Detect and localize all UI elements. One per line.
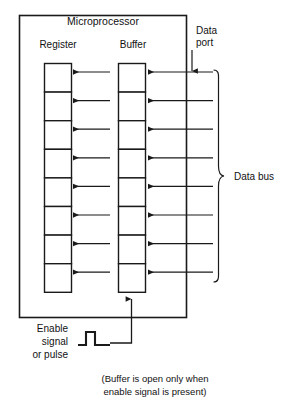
data-port-label-line2: port	[196, 37, 213, 48]
buffer-cell	[119, 121, 146, 150]
enable-signal-annotation: Enable signal or pulse	[32, 299, 131, 360]
register-column	[45, 64, 72, 293]
buffer-cell	[119, 178, 146, 207]
buffer-cell	[119, 92, 146, 121]
microprocessor-data-bus-diagram: Microprocessor Register Buffer	[0, 0, 291, 407]
caption-line2: enable signal is present)	[104, 386, 207, 397]
buffer-cell	[119, 64, 146, 93]
register-cell	[45, 264, 72, 293]
register-cell	[45, 207, 72, 236]
register-cell	[45, 235, 72, 264]
data-port-annotation: Data port	[192, 25, 218, 71]
data-bus-annotation: Data bus	[214, 70, 275, 282]
register-cell	[45, 178, 72, 207]
register-column-label: Register	[39, 39, 77, 50]
enable-label-line1: Enable	[37, 323, 69, 334]
buffer-column	[119, 64, 146, 293]
right-curly-brace-icon	[214, 70, 225, 282]
register-cell	[45, 149, 72, 178]
register-cell	[45, 121, 72, 150]
page-title: Microprocessor	[67, 15, 139, 27]
buffer-cell	[119, 264, 146, 293]
enable-label-line2: signal	[42, 336, 68, 347]
buffer-cell	[119, 149, 146, 178]
enable-signal-wire	[110, 299, 132, 343]
data-port-label-line1: Data	[196, 25, 218, 36]
buffer-cell	[119, 235, 146, 264]
data-bus-label: Data bus	[234, 171, 274, 182]
register-cell	[45, 92, 72, 121]
square-pulse-icon	[78, 332, 110, 345]
caption-line1: (Buffer is open only when	[101, 373, 208, 384]
register-cell	[45, 64, 72, 93]
enable-label-line3: or pulse	[32, 349, 68, 360]
buffer-cell	[119, 207, 146, 236]
caption-block: (Buffer is open only when enable signal …	[101, 373, 208, 397]
buffer-column-label: Buffer	[120, 39, 147, 50]
